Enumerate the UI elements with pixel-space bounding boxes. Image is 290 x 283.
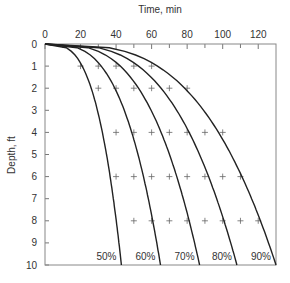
plus-marker [113,174,119,180]
isochrone-chart: Time, min 020406080100120 012345678910 D… [0,0,290,283]
plus-marker [202,218,208,224]
y-tick-label: 8 [31,215,37,226]
x-tick-label: 40 [111,29,123,40]
y-tick-label: 0 [31,39,37,50]
y-tick-label: 7 [31,193,37,204]
x-tick-label: 120 [250,29,267,40]
curve-label: 50% [96,251,116,262]
y-tick-label: 4 [31,127,37,138]
x-axis-title: Time, min [138,4,182,15]
plus-marker [95,85,101,91]
y-tick-label: 5 [31,149,37,160]
x-tick-label: 0 [42,29,48,40]
plus-marker [184,174,190,180]
y-tick-label: 9 [31,237,37,248]
plus-marker [149,129,155,135]
plot-frame [45,44,276,265]
x-tick-label: 100 [214,29,231,40]
y-tick-label: 6 [31,171,37,182]
plus-marker [220,174,226,180]
curve-label: 90% [251,251,271,262]
plus-marker [220,129,226,135]
plus-marker [166,85,172,91]
curve-90pct [45,44,276,265]
curve-70pct [45,44,200,265]
curve-label: 60% [135,251,155,262]
curve-label: 70% [175,251,195,262]
curve-60pct [45,44,161,265]
plus-marker [166,218,172,224]
plus-marker [237,218,243,224]
plus-marker [202,129,208,135]
y-tick-label: 2 [31,83,37,94]
plus-marker [131,218,137,224]
percent-curves [45,44,276,265]
plus-marker [131,85,137,91]
plus-marker [166,129,172,135]
x-tick-label: 20 [75,29,87,40]
curve-80pct [45,44,237,265]
curve-50pct [45,44,121,265]
plus-marker [113,129,119,135]
x-tick-label: 60 [146,29,158,40]
y-tick-label: 3 [31,105,37,116]
plus-marker [166,174,172,180]
plus-marker [149,85,155,91]
y-axis-title: Depth, ft [6,136,17,174]
curve-label: 80% [212,251,232,262]
plus-marker [149,174,155,180]
y-axis-ticks: 012345678910 [26,39,49,271]
plus-marker [202,174,208,180]
x-tick-label: 80 [182,29,194,40]
y-tick-label: 10 [26,260,38,271]
curve-labels: 50%60%70%80%90% [96,251,271,262]
y-tick-label: 1 [31,61,37,72]
plus-marker [131,174,137,180]
